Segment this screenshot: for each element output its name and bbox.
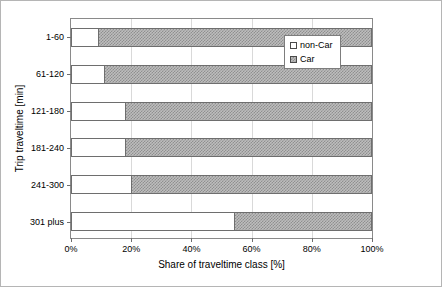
y-axis-tick-label: 121-180 (31, 106, 64, 116)
bar-segment-non-car[interactable] (71, 102, 125, 121)
y-axis-tick-label: 241-300 (31, 180, 64, 190)
white-square-icon (290, 42, 297, 49)
y-axis-tick (67, 37, 71, 38)
y-axis-tick-label: 1-60 (46, 32, 64, 42)
y-axis-tick (67, 148, 71, 149)
bar-segment-non-car[interactable] (71, 65, 104, 84)
bar-row[interactable] (71, 138, 372, 157)
chart-legend: non-Car Car (284, 35, 341, 69)
x-axis-tick-label: 80% (303, 244, 321, 254)
x-axis-tick (372, 238, 373, 242)
gray-dotted-square-icon (290, 56, 297, 63)
x-axis-title: Share of traveltime class [%] (70, 259, 373, 270)
y-axis-tick-label: 61-120 (36, 69, 64, 79)
legend-label-car: Car (300, 54, 315, 64)
y-axis-tick (67, 222, 71, 223)
x-axis-tick-label: 0% (64, 244, 77, 254)
bar-segment-non-car[interactable] (71, 28, 98, 47)
y-axis-tick (67, 111, 71, 112)
legend-item-non-car: non-Car (290, 40, 333, 50)
x-axis-tick-label: 40% (182, 244, 200, 254)
bar-segment-non-car[interactable] (71, 138, 125, 157)
x-axis-tick (191, 238, 192, 242)
y-axis-tick (67, 185, 71, 186)
x-axis-tick-label: 60% (243, 244, 261, 254)
bar-row[interactable] (71, 212, 372, 231)
y-axis-title: Trip traveltime [min] (13, 18, 27, 239)
bar-segment-car[interactable] (125, 102, 372, 121)
x-axis-tick (252, 238, 253, 242)
bar-row[interactable] (71, 102, 372, 121)
bar-segment-car[interactable] (234, 212, 372, 231)
x-axis-tick-label: 100% (360, 244, 383, 254)
y-axis-title-text: Trip traveltime [min] (15, 85, 26, 172)
bar-segment-non-car[interactable] (71, 175, 131, 194)
bar-segment-car[interactable] (131, 175, 372, 194)
bar-row[interactable] (71, 175, 372, 194)
x-axis-tick (71, 238, 72, 242)
bar-segment-car[interactable] (125, 138, 372, 157)
y-axis-tick-label: 301 plus (30, 217, 64, 227)
gridline (191, 19, 192, 238)
x-axis-tick (312, 238, 313, 242)
chart-figure: Trip traveltime [min] 1-6061-120121-1801… (0, 0, 442, 287)
legend-item-car: Car (290, 54, 333, 64)
y-axis-tick-label: 181-240 (31, 143, 64, 153)
gridline (252, 19, 253, 238)
legend-label-non-car: non-Car (300, 40, 333, 50)
y-axis-tick (67, 74, 71, 75)
gridline (131, 19, 132, 238)
x-axis-tick-label: 20% (122, 244, 140, 254)
bar-segment-non-car[interactable] (71, 212, 234, 231)
x-axis-tick (131, 238, 132, 242)
